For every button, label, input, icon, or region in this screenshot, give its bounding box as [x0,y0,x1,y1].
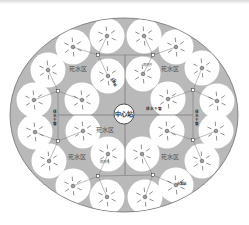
dead-zone-label: 死水区 [161,153,179,161]
dead-zone-label: 死水区 [96,126,114,134]
dead-zone-label: 死水区 [68,153,86,161]
dead-zone-label: 死水区 [69,65,87,73]
annotation-label: 水泵站 [176,181,187,186]
center-station: 中心站 [114,104,134,124]
well-field-diagram: 死水区死水区死水区死水区死水区观测井观测井排水干管排水干管排水干管水泵站水泵站 … [0,0,249,225]
annotation-label: 观测井 [100,159,109,164]
junction-box [57,140,60,143]
center-station-label: 中心站 [115,110,133,118]
junction-box [192,89,195,92]
junction-box [57,90,60,93]
dead-zone-label: 死水区 [161,65,179,73]
junction-box [152,54,155,57]
junction-box [97,175,100,178]
annotation-label: 排水干管 [146,106,162,111]
junction-box [192,139,195,142]
junction-box [152,174,155,177]
annotation-label: 观测井 [143,62,152,67]
junction-box [97,54,100,57]
